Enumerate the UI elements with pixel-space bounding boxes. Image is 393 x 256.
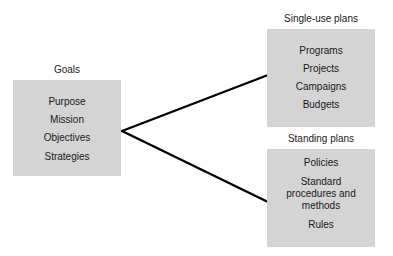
goals-item-mission: Mission xyxy=(13,114,121,126)
goals-item-purpose: Purpose xyxy=(13,96,121,108)
connector-goals-to-standing xyxy=(122,131,268,202)
goals-item-strategies: Strategies xyxy=(13,151,121,163)
goals-box: Purpose Mission Objectives Strategies xyxy=(13,80,121,176)
goals-item-objectives: Objectives xyxy=(13,132,121,144)
single-use-item-campaigns: Campaigns xyxy=(267,81,375,93)
single-use-plans-box: Programs Projects Campaigns Budgets xyxy=(267,29,375,127)
standing-item-standard-line3: methods xyxy=(267,200,375,212)
standing-plans-box: Policies Standard procedures and methods… xyxy=(267,149,375,247)
standing-item-policies: Policies xyxy=(267,157,375,169)
single-use-item-budgets: Budgets xyxy=(267,99,375,111)
standing-item-standard-line1: Standard xyxy=(267,176,375,188)
goals-title: Goals xyxy=(13,64,121,76)
standing-item-standard-line2: procedures and xyxy=(267,188,375,200)
connector-goals-to-single-use xyxy=(122,75,268,131)
single-use-plans-title: Single-use plans xyxy=(267,13,375,25)
standing-item-rules: Rules xyxy=(267,219,375,231)
standing-plans-title: Standing plans xyxy=(267,133,375,145)
single-use-item-programs: Programs xyxy=(267,45,375,57)
single-use-item-projects: Projects xyxy=(267,63,375,75)
